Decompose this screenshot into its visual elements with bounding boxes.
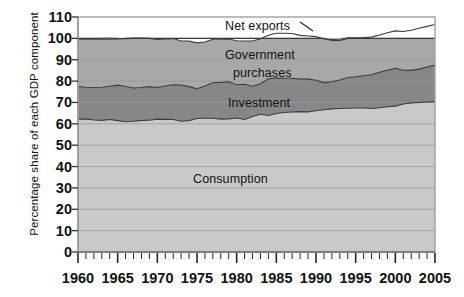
y-axis-tick-labels: 0102030405060708090100110 (20, 0, 72, 297)
y-tick-label: 10 (56, 224, 72, 239)
y-tick-label: 100 (48, 31, 72, 46)
series-label-government: Government (225, 48, 295, 62)
series-label-consumption: Consumption (193, 172, 268, 186)
y-tick-label: 20 (56, 202, 72, 217)
series-label-investment: Investment (228, 96, 290, 110)
y-tick-label: 30 (56, 181, 72, 196)
y-tick-label: 90 (56, 53, 72, 68)
y-tick-label: 50 (56, 138, 72, 153)
y-tick-label: 70 (56, 95, 72, 110)
y-tick-label: 60 (56, 117, 72, 132)
y-tick-label: 0 (64, 245, 72, 260)
series-label-government-line2: purchases (233, 66, 292, 80)
y-tick-label: 80 (56, 74, 72, 89)
y-tick-label: 40 (56, 160, 72, 175)
gdp-components-stacked-area-chart: Percentage share of each GDP component 0… (0, 0, 464, 297)
series-label-net-exports: Net exports (225, 19, 290, 33)
y-tick-label: 110 (49, 10, 72, 25)
